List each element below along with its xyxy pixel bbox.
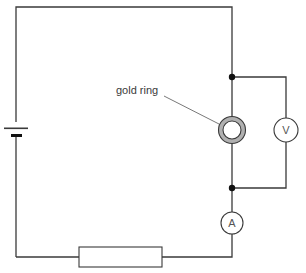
gold-ring-label: gold ring	[116, 84, 158, 96]
battery-cell	[4, 128, 28, 138]
junction-top	[229, 74, 235, 80]
gold-ring-leader-line	[164, 96, 219, 124]
resistor	[79, 247, 162, 267]
ammeter: A	[221, 212, 243, 234]
voltmeter: V	[274, 118, 298, 142]
voltmeter-symbol: V	[282, 124, 290, 136]
junction-bottom	[229, 185, 235, 191]
gold-ring	[219, 117, 246, 144]
ammeter-symbol: A	[228, 217, 236, 229]
